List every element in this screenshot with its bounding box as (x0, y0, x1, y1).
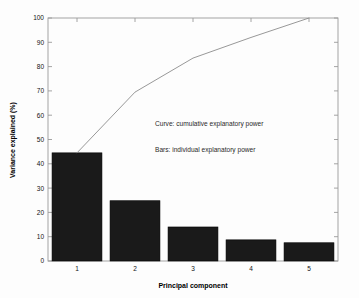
bar (284, 243, 334, 261)
y-tick-label: 0 (40, 257, 44, 264)
x-tick-label: 3 (191, 265, 195, 272)
curve-annotation: Curve: cumulative explanatory power (155, 120, 264, 128)
x-tick-label: 4 (249, 265, 253, 272)
y-tick-label: 100 (33, 14, 44, 21)
y-tick-label: 40 (37, 160, 45, 167)
y-tick-label: 30 (37, 185, 45, 192)
bar (52, 153, 102, 261)
y-tick-label: 50 (37, 136, 45, 143)
y-tick-label: 90 (37, 39, 45, 46)
y-tick-label: 70 (37, 87, 45, 94)
bars-annotation: Bars: individual explanatory power (155, 146, 256, 154)
bar (168, 227, 218, 261)
y-tick-label: 20 (37, 209, 45, 216)
x-tick-label: 1 (75, 265, 79, 272)
y-tick-label: 60 (37, 112, 45, 119)
x-tick-label: 2 (133, 265, 137, 272)
scree-plot-figure: 0102030405060708090100 12345 Variance ex… (0, 0, 359, 298)
y-tick-label: 80 (37, 63, 45, 70)
y-tick-label: 10 (37, 233, 45, 240)
x-axis-title: Principal component (158, 282, 228, 290)
bar (110, 201, 160, 261)
chart-canvas: 0102030405060708090100 12345 Variance ex… (0, 0, 359, 298)
bar (226, 240, 276, 261)
x-tick-label: 5 (307, 265, 311, 272)
y-axis-title: Variance explained (%) (9, 102, 17, 178)
